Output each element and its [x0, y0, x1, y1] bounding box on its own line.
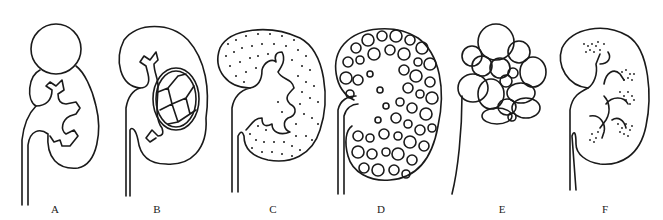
panel-label-f: F	[602, 203, 608, 215]
panel-c-drawing	[218, 30, 325, 192]
panel-label-e: E	[499, 203, 506, 215]
panel-d-drawing	[336, 29, 442, 194]
panel-label-b: B	[153, 203, 160, 215]
panel-label-c: C	[269, 203, 276, 215]
panel-b-drawing	[119, 27, 207, 197]
panel-label-a: A	[51, 203, 59, 215]
panel-label-d: D	[377, 203, 385, 215]
kidney-diagram: A B C D E F	[0, 0, 663, 220]
panel-a-drawing	[22, 24, 99, 205]
scattered-cyst-dots	[225, 33, 319, 157]
kidney-illustrations	[0, 0, 663, 220]
panel-f-drawing	[560, 28, 648, 190]
panel-e-drawing	[452, 24, 546, 194]
